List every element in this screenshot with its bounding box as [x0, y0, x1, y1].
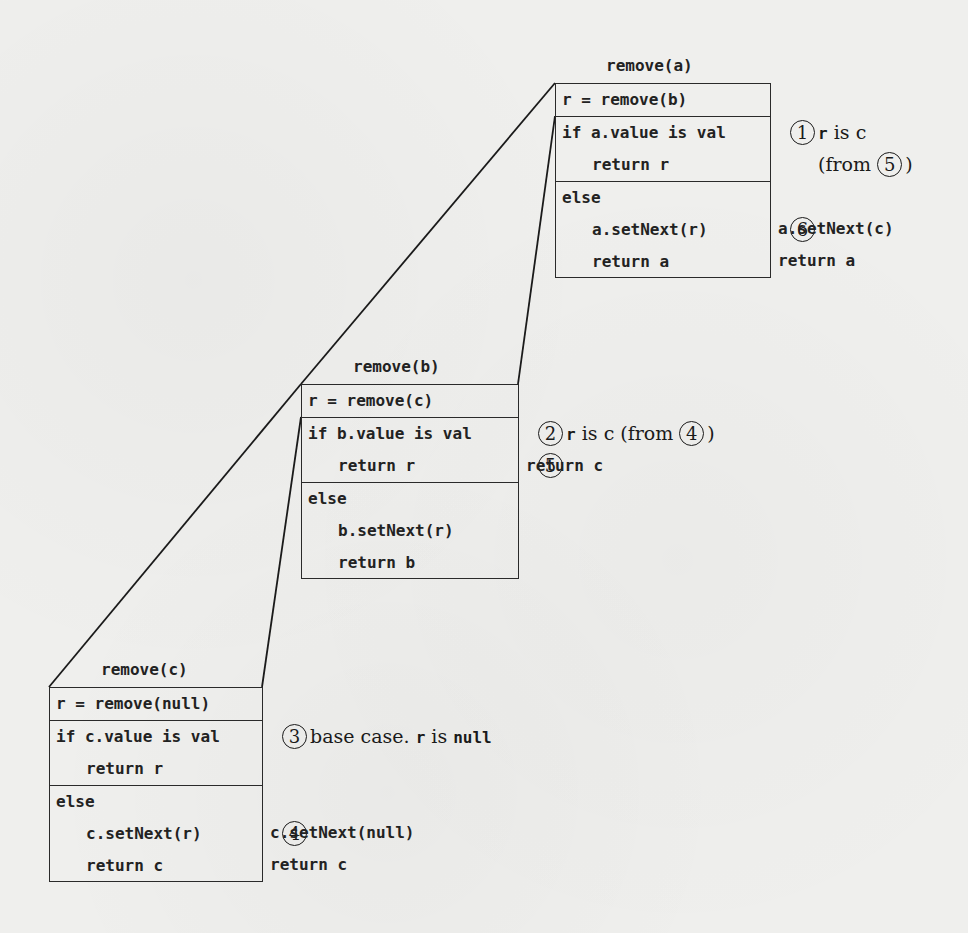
frame-a-if-return: return r [556, 149, 770, 181]
frame-a-else-return: return a [556, 246, 770, 278]
frame-c-else-setnext: c.setNext(r) [50, 818, 262, 850]
frame-a: r = remove(b) if a.value is val return r… [555, 83, 771, 278]
frame-b-call: r = remove(c) [302, 385, 518, 417]
annotation-step-4-return: return c [270, 849, 347, 881]
annotation-step-3: 3base case. r is null [270, 688, 492, 754]
frame-b: r = remove(c) if b.value is val return r… [301, 384, 519, 579]
frame-c-call-section: r = remove(null) [50, 688, 262, 720]
annotation-step-5-return: return c [526, 450, 603, 482]
frame-c-if-line: if c.value is val [50, 721, 262, 753]
frame-c-call: r = remove(null) [50, 688, 262, 720]
frame-a-if-line: if a.value is val [556, 117, 770, 149]
frame-b-else-setnext: b.setNext(r) [302, 515, 518, 547]
frame-a-else-setnext: a.setNext(r) [556, 214, 770, 246]
connector-a-to-b-left [301, 83, 555, 384]
frame-b-title: remove(b) [353, 357, 440, 376]
connector-a-to-b-right [518, 116, 555, 384]
frame-b-if-return: return r [302, 450, 518, 482]
frame-c-else-return: return c [50, 850, 262, 882]
connector-b-to-c-left [49, 384, 301, 687]
frame-c-if-section: if c.value is val return r [50, 720, 262, 785]
frame-c: r = remove(null) if c.value is val retur… [49, 687, 263, 882]
frame-a-else-section: else a.setNext(r) return a [556, 181, 770, 278]
frame-b-else-line: else [302, 483, 518, 515]
frame-a-else-line: else [556, 182, 770, 214]
frame-b-else-section: else b.setNext(r) return b [302, 482, 518, 579]
step-5-ref-circle-icon: 5 [877, 152, 902, 177]
frame-a-title: remove(a) [606, 56, 693, 75]
annotation-step-6-setnext: a.setNext(c) [778, 213, 894, 245]
annotation-step-1-from: (from 5) [806, 116, 913, 180]
annotation-step-4-setnext: c.setNext(null) [270, 817, 415, 849]
frame-c-else-line: else [50, 786, 262, 818]
step-4-ref-circle-icon: 4 [679, 421, 704, 446]
frame-b-if-section: if b.value is val return r [302, 417, 518, 482]
frame-b-else-return: return b [302, 547, 518, 579]
frame-a-call-section: r = remove(b) [556, 84, 770, 116]
frame-c-else-section: else c.setNext(r) return c [50, 785, 262, 882]
frame-c-title: remove(c) [101, 660, 188, 679]
frame-a-call: r = remove(b) [556, 84, 770, 116]
frame-a-if-section: if a.value is val return r [556, 116, 770, 181]
step-3-circle-icon: 3 [282, 724, 307, 749]
frame-b-call-section: r = remove(c) [302, 385, 518, 417]
frame-c-if-return: return r [50, 753, 262, 785]
annotation-step-6-return: return a [778, 245, 855, 277]
frame-b-if-line: if b.value is val [302, 418, 518, 450]
connector-b-to-c-right [262, 417, 301, 687]
